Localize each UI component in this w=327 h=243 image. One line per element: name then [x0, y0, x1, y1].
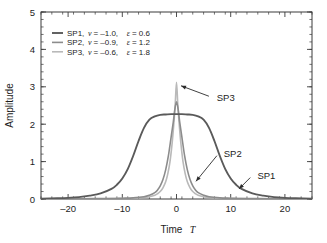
- y-tick-label: 2: [30, 119, 35, 130]
- x-tick-label: –20: [60, 203, 76, 214]
- x-axis-title-var: T: [190, 224, 197, 235]
- legend-label-prefix: SP3,: [67, 48, 84, 57]
- legend-label-eps-value: = 0.6: [132, 29, 151, 38]
- legend-label-eps-value: = 1.8: [132, 48, 151, 57]
- legend-label-prefix: SP1,: [67, 29, 84, 38]
- curve-sp2: [41, 102, 312, 199]
- legend-label-nu-value: = –1.0,: [93, 29, 118, 38]
- legend-label-prefix: SP2,: [67, 38, 84, 47]
- annotation-arrowhead: [181, 86, 186, 90]
- chart-svg: –20–1001020012345AmplitudeTimeTSP3SP2SP1…: [0, 0, 327, 243]
- annotation-label-sp3: SP3: [217, 92, 235, 103]
- x-tick-label: 10: [225, 203, 236, 214]
- legend-label-eps-symbol: ε: [127, 38, 131, 47]
- y-tick-label: 3: [30, 81, 35, 92]
- chart-figure: –20–1001020012345AmplitudeTimeTSP3SP2SP1…: [0, 0, 327, 243]
- legend-label-nu-symbol: ν: [88, 48, 92, 57]
- legend-label-nu-value: = –0.6,: [93, 48, 118, 57]
- x-tick-label: –10: [114, 203, 130, 214]
- curve-sp1: [41, 114, 312, 199]
- curves-group: [41, 82, 312, 199]
- x-axis-title: Time: [161, 224, 183, 235]
- legend-label-eps-symbol: ε: [127, 29, 131, 38]
- y-tick-label: 0: [30, 194, 35, 205]
- y-tick-label: 1: [30, 156, 35, 167]
- annotation-label-sp1: SP1: [257, 170, 275, 181]
- y-tick-label: 4: [30, 44, 35, 55]
- annotation-label-sp2: SP2: [224, 148, 242, 159]
- legend-label-nu-symbol: ν: [88, 29, 92, 38]
- y-tick-label: 5: [30, 7, 35, 18]
- x-tick-label: 0: [174, 203, 179, 214]
- x-tick-label: 20: [280, 203, 291, 214]
- legend-label-nu-symbol: ν: [88, 38, 92, 47]
- legend-label-nu-value: = –0.9,: [93, 38, 118, 47]
- y-axis-title: Amplitude: [4, 83, 15, 128]
- legend-label-eps-symbol: ε: [127, 48, 131, 57]
- legend-label-eps-value: = 1.2: [132, 38, 151, 47]
